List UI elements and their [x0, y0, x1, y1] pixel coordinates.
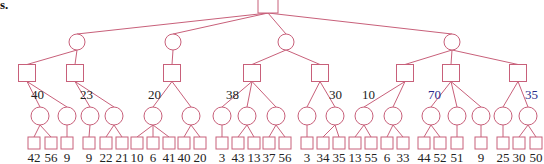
- edge-chance-to-decision: [75, 50, 77, 65]
- leaf-value-label: 56: [279, 150, 293, 164]
- chance-node: [267, 107, 285, 125]
- leaf-node: [333, 137, 345, 149]
- edge-root-to-chance: [173, 13, 268, 34]
- leaf-value-label: 37: [263, 150, 277, 164]
- decision-value-label: 10: [362, 87, 375, 102]
- decision-node: [164, 65, 181, 82]
- chance-node: [444, 34, 460, 50]
- leaf-value-label: 52: [434, 150, 447, 164]
- decision-value-label: 35: [525, 87, 538, 102]
- leaf-node: [100, 137, 112, 149]
- leaf-value-label: 51: [451, 150, 464, 164]
- edge-chance-to-leaf: [424, 125, 431, 137]
- corner-text-fragment: s.: [0, 0, 8, 12]
- leaf-value-label: 56: [45, 150, 59, 164]
- leaf-value-label: 34: [317, 150, 331, 164]
- leaf-value-label: 42: [28, 150, 41, 164]
- edge-chance-to-leaf: [34, 125, 40, 137]
- chance-node: [105, 107, 123, 125]
- leaf-value-label: 6: [384, 150, 391, 164]
- leaf-node: [194, 137, 206, 149]
- chance-node: [81, 107, 99, 125]
- leaf-value-label: 13: [248, 150, 261, 164]
- chance-node: [31, 107, 49, 125]
- leaf-node: [397, 137, 409, 149]
- edge-decision-to-chance: [307, 82, 320, 108]
- leaf-node: [178, 137, 190, 149]
- decision-node: [19, 65, 36, 82]
- leaf-node: [147, 137, 159, 149]
- tree-labels: 4023203830107035425699222110641402034313…: [28, 87, 543, 164]
- leaf-value-label: 10: [131, 150, 144, 164]
- leaf-value-label: 3: [219, 150, 226, 164]
- chance-node: [384, 107, 402, 125]
- decision-node: [244, 65, 261, 82]
- edge-chance-to-leaf: [323, 125, 335, 137]
- leaf-node: [163, 137, 175, 149]
- chance-node: [519, 107, 537, 125]
- leaf-value-label: 13: [349, 150, 362, 164]
- edge-chance-to-leaf: [40, 125, 51, 137]
- leaf-value-label: 55: [365, 150, 378, 164]
- edge-chance-to-leaf: [191, 125, 200, 137]
- edge-chance-to-leaf: [519, 125, 528, 137]
- edge-decision-to-chance: [503, 82, 518, 108]
- edge-chance-to-leaf: [137, 125, 153, 137]
- decision-value-label: 70: [428, 87, 441, 102]
- leaf-node: [513, 137, 525, 149]
- decision-value-label: 20: [148, 87, 161, 102]
- decision-value-label: 23: [80, 87, 93, 102]
- leaf-value-label: 43: [232, 150, 245, 164]
- edge-chance-to-leaf: [238, 125, 247, 137]
- chance-node: [238, 107, 256, 125]
- edge-chance-to-leaf: [276, 125, 285, 137]
- decision-tree-diagram: 4023203830107035425699222110641402034313…: [0, 0, 544, 164]
- leaf-node: [381, 137, 393, 149]
- edge-chance-to-leaf: [528, 125, 536, 137]
- chance-node: [182, 107, 200, 125]
- leaf-value-label: 30: [513, 150, 526, 164]
- chance-node: [58, 107, 76, 125]
- leaf-value-label: 40: [178, 150, 191, 164]
- leaf-node: [61, 137, 73, 149]
- edge-root-to-chance: [268, 13, 286, 34]
- leaf-node: [232, 137, 244, 149]
- leaf-node: [301, 137, 313, 149]
- chance-node: [326, 107, 344, 125]
- decision-node: [312, 65, 329, 82]
- leaf-node: [216, 137, 228, 149]
- leaf-value-label: 22: [100, 150, 113, 164]
- edge-chance-to-decision: [286, 50, 320, 65]
- edge-chance-to-leaf: [106, 125, 114, 137]
- edge-chance-to-leaf: [393, 125, 403, 137]
- decision-value-label: 40: [31, 87, 44, 102]
- edge-chance-to-leaf: [89, 125, 90, 137]
- leaf-node: [116, 137, 128, 149]
- leaf-value-label: 3: [304, 150, 311, 164]
- leaf-value-label: 9: [478, 150, 485, 164]
- tree-nodes: [19, 0, 543, 149]
- decision-node: [397, 65, 414, 82]
- leaf-value-label: 50: [530, 150, 543, 164]
- leaf-node: [365, 137, 377, 149]
- leaf-node: [418, 137, 430, 149]
- decision-node: [443, 65, 460, 82]
- edge-chance-to-leaf: [114, 125, 122, 137]
- root-decision-node: [258, 0, 278, 13]
- chance-node: [355, 107, 373, 125]
- edge-chance-to-decision: [405, 50, 452, 65]
- leaf-node: [263, 137, 275, 149]
- leaf-node: [475, 137, 487, 149]
- edge-chance-to-leaf: [364, 125, 371, 137]
- edge-chance-to-decision: [172, 50, 173, 65]
- leaf-value-label: 33: [397, 150, 410, 164]
- chance-node: [165, 34, 181, 50]
- leaf-node: [317, 137, 329, 149]
- leaf-node: [279, 137, 291, 149]
- chance-node: [278, 34, 294, 50]
- leaf-node: [45, 137, 57, 149]
- edge-chance-to-leaf: [247, 125, 254, 137]
- tree-canvas: 4023203830107035425699222110641402034313…: [0, 0, 544, 164]
- chance-node: [494, 107, 512, 125]
- edge-chance-to-leaf: [431, 125, 440, 137]
